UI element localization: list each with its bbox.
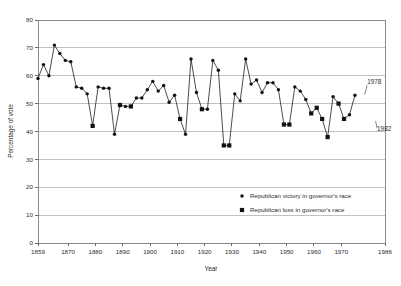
data-point-republican-victory [217,68,220,71]
data-point-republican-victory [293,85,296,88]
data-point-republican-victory [146,88,149,91]
data-point-republican-victory [299,89,302,92]
data-point-republican-victory [42,63,45,66]
annotation-label-1978: 1978 [367,78,382,85]
x-tick-label: 1940 [252,248,266,255]
data-point-republican-victory [124,105,127,108]
legend-marker-square [240,208,244,212]
data-point-republican-victory [69,60,72,63]
x-tick-label: 1900 [143,248,157,255]
data-point-republican-loss [222,143,226,147]
data-point-republican-victory [107,87,110,90]
y-tick-label: 0 [30,239,34,246]
x-tick-label: 1986 [378,248,392,255]
data-point-republican-victory [135,96,138,99]
legend-label-0: Republican victory in governor's race [250,192,352,199]
data-point-republican-loss [91,124,95,128]
x-tick-label: 1930 [225,248,239,255]
data-point-republican-victory [277,88,280,91]
data-point-republican-victory [255,78,258,81]
y-tick-label: 30 [26,156,33,163]
legend-marker-circle [240,194,243,197]
data-point-republican-loss [118,103,122,107]
data-point-republican-victory [167,101,170,104]
x-tick-label: 1970 [334,248,348,255]
data-point-republican-victory [36,77,39,80]
x-tick-label: 1859 [31,248,45,255]
data-point-republican-victory [233,92,236,95]
data-point-republican-loss [287,122,291,126]
data-point-republican-victory [244,57,247,60]
x-axis-title: Year [205,265,219,272]
y-tick-label: 40 [26,128,33,135]
data-point-republican-victory [53,43,56,46]
data-point-republican-victory [195,91,198,94]
data-point-republican-loss [309,111,313,115]
data-point-republican-loss [326,135,330,139]
data-point-republican-victory [113,133,116,136]
data-point-republican-victory [58,52,61,55]
data-point-republican-victory [238,99,241,102]
data-point-republican-victory [173,94,176,97]
data-point-republican-victory [211,59,214,62]
data-point-republican-victory [75,85,78,88]
x-tick-label: 1890 [116,248,130,255]
data-point-republican-loss [129,104,133,108]
data-point-republican-victory [266,81,269,84]
data-point-republican-victory [249,82,252,85]
data-point-republican-victory [47,74,50,77]
data-point-republican-victory [184,133,187,136]
x-tick-label: 1950 [280,248,294,255]
x-tick-label: 1870 [61,248,75,255]
y-tick-label: 80 [26,16,33,23]
x-axis-ticks: 1859187018801890190019101920193019401950… [31,243,392,255]
data-point-republican-victory [304,98,307,101]
chart-container: 01020304050607080 1859187018801890190019… [0,0,401,286]
data-point-republican-victory [85,92,88,95]
y-tick-label: 50 [26,100,33,107]
data-point-republican-victory [162,84,165,87]
data-point-republican-victory [64,59,67,62]
y-axis-title: Percentage of vote [7,104,15,158]
legend-label-1: Republican loss in governor's race [250,206,345,213]
data-point-republican-victory [157,89,160,92]
data-point-republican-victory [206,108,209,111]
data-point-republican-loss [178,117,182,121]
data-point-republican-loss [336,102,340,106]
data-point-republican-victory [260,91,263,94]
data-point-republican-victory [189,57,192,60]
data-point-republican-loss [315,106,319,110]
data-point-republican-loss [200,107,204,111]
data-markers [36,43,356,147]
data-point-republican-victory [331,95,334,98]
data-point-republican-loss [342,117,346,121]
y-tick-label: 70 [26,44,33,51]
data-point-republican-victory [348,113,351,116]
series-line [38,45,355,145]
y-axis-ticks: 01020304050607080 [26,16,38,246]
annotation-leader-line [365,85,368,95]
data-point-republican-victory [96,85,99,88]
x-tick-label: 1960 [307,248,321,255]
data-point-republican-victory [353,94,356,97]
data-point-republican-victory [140,96,143,99]
y-tick-label: 10 [26,211,33,218]
data-point-republican-loss [320,117,324,121]
data-point-republican-victory [102,87,105,90]
x-tick-label: 1880 [88,248,102,255]
chart-legend: Republican victory in governor's raceRep… [240,192,352,213]
chart-annotations: 19781982 [365,78,392,132]
data-point-republican-loss [227,143,231,147]
data-point-republican-loss [282,122,286,126]
data-point-republican-victory [271,81,274,84]
data-series [38,45,355,145]
annotation-label-1982: 1982 [377,125,392,132]
data-point-republican-victory [151,80,154,83]
y-tick-label: 20 [26,183,33,190]
x-tick-label: 1920 [198,248,212,255]
data-point-republican-victory [80,87,83,90]
x-tick-label: 1910 [170,248,184,255]
percentage-of-vote-line-chart: 01020304050607080 1859187018801890190019… [0,0,401,286]
y-tick-label: 60 [26,72,33,79]
